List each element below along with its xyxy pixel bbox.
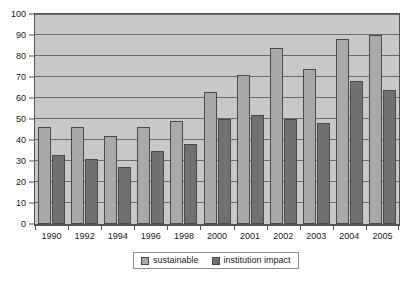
bar-group	[104, 14, 131, 224]
x-tick-mark	[200, 225, 201, 230]
bar	[369, 35, 382, 224]
y-tick-mark	[29, 140, 34, 141]
y-tick-mark	[29, 77, 34, 78]
bar	[270, 48, 283, 224]
bar	[336, 39, 349, 224]
x-tick-mark	[167, 225, 168, 230]
bar	[317, 123, 330, 224]
bar-group	[237, 14, 264, 224]
bar	[284, 119, 297, 224]
y-tick-label: 70	[16, 73, 26, 82]
x-tick-label: 2003	[306, 232, 326, 241]
y-tick-mark	[29, 56, 34, 57]
y-axis: 0102030405060708090100	[0, 13, 30, 225]
bar-group	[270, 14, 297, 224]
x-tick-label: 2001	[240, 232, 260, 241]
x-tick-label: 1996	[141, 232, 161, 241]
legend-item-institution-impact: institution impact	[212, 256, 291, 265]
bar	[151, 151, 164, 225]
x-tick-label: 2000	[207, 232, 227, 241]
x-tick-label: 1992	[75, 232, 95, 241]
x-tick-mark	[398, 225, 399, 230]
bar-group	[38, 14, 65, 224]
bar	[71, 127, 84, 224]
y-tick-mark	[29, 35, 34, 36]
y-tick-mark	[29, 203, 34, 204]
y-tick-mark	[29, 119, 34, 120]
bar	[52, 155, 65, 224]
bar-group	[336, 14, 363, 224]
y-tick-label: 80	[16, 52, 26, 61]
y-tick-mark	[29, 161, 34, 162]
bar	[104, 136, 117, 224]
bars-layer	[35, 14, 399, 224]
y-tick-label: 100	[11, 10, 26, 19]
bar	[184, 144, 197, 224]
x-tick-mark	[234, 225, 235, 230]
bar	[118, 167, 131, 224]
x-tick-mark	[101, 225, 102, 230]
bar-group	[137, 14, 164, 224]
legend-swatch-icon	[141, 257, 149, 265]
bar	[350, 81, 363, 224]
legend-item-sustainable: sustainable	[141, 256, 199, 265]
legend-swatch-icon	[212, 257, 220, 265]
bar	[251, 115, 264, 224]
x-tick-label: 1998	[174, 232, 194, 241]
bar	[303, 69, 316, 224]
y-tick-label: 50	[16, 115, 26, 124]
bar-chart: 0102030405060708090100 19901992199419961…	[0, 0, 415, 285]
bar	[137, 127, 150, 224]
x-tick-mark	[68, 225, 69, 230]
legend-item-label: institution impact	[224, 256, 291, 265]
x-tick-mark	[333, 225, 334, 230]
legend-item-label: sustainable	[153, 256, 199, 265]
bar-group	[204, 14, 231, 224]
y-tick-label: 0	[21, 220, 26, 229]
bar-group	[71, 14, 98, 224]
y-tick-label: 90	[16, 31, 26, 40]
y-tick-label: 10	[16, 199, 26, 208]
y-tick-mark	[29, 182, 34, 183]
bar-group	[303, 14, 330, 224]
x-tick-mark	[366, 225, 367, 230]
y-tick-label: 40	[16, 136, 26, 145]
bar	[170, 121, 183, 224]
x-tick-label: 2004	[339, 232, 359, 241]
y-tick-mark	[29, 98, 34, 99]
x-tick-mark	[267, 225, 268, 230]
x-axis-labels: 1990199219941996199820002001200220032004…	[35, 232, 399, 246]
x-tick-label: 2005	[372, 232, 392, 241]
x-tick-label: 2002	[273, 232, 293, 241]
y-tick-label: 60	[16, 94, 26, 103]
y-tick-mark	[29, 14, 34, 15]
bar	[383, 90, 396, 224]
x-tick-label: 1990	[42, 232, 62, 241]
y-tick-label: 20	[16, 178, 26, 187]
x-tick-mark	[300, 225, 301, 230]
bar	[237, 75, 250, 224]
x-tick-mark	[35, 225, 36, 230]
bar-group	[170, 14, 197, 224]
bar	[38, 127, 51, 224]
bar	[204, 92, 217, 224]
bar-group	[369, 14, 396, 224]
x-tick-mark	[134, 225, 135, 230]
x-tick-label: 1994	[108, 232, 128, 241]
bar	[85, 159, 98, 224]
y-tick-label: 30	[16, 157, 26, 166]
chart-legend: sustainable institution impact	[133, 252, 299, 269]
bar	[218, 119, 231, 224]
